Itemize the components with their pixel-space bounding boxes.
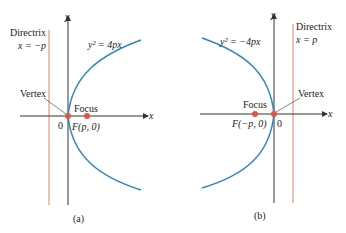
parabola-equation: y² = −4px [219,36,261,47]
focus-coords: F(−p, 0) [231,118,267,130]
x-axis-label: x [148,110,154,121]
vertex-point [65,113,71,119]
origin-label: 0 [58,120,63,131]
focus-coords: F(p, 0) [71,121,100,133]
panel-a: Directrix x = −p y² = 4px Vertex Focus F… [10,11,154,225]
vertex-label: Vertex [20,88,46,99]
vertex-pointer [276,98,300,112]
focus-label: Focus [74,103,98,114]
directrix-label: Directrix [10,27,46,38]
focus-point [252,111,258,117]
origin-label: 0 [277,118,282,129]
directrix-equation: x = p [295,34,317,45]
directrix-equation: x = −p [17,40,46,51]
parabola-curve [202,38,274,188]
y-axis-label: y [270,9,276,20]
vertex-pointer [44,98,66,114]
parabola-curve [68,40,141,190]
vertex-point [271,111,277,117]
vertex-label: Vertex [298,88,324,99]
caption-a: (a) [73,213,84,225]
parabola-equation: y² = 4px [87,39,122,50]
y-axis-label: y [64,11,70,22]
caption-b: (b) [254,210,266,222]
directrix-label: Directrix [296,21,332,32]
panel-b: Directrix x = p y² = −4px Vertex Focus F… [200,9,333,222]
x-axis-label: x [327,108,333,119]
parabola-diagram: Directrix x = −p y² = 4px Vertex Focus F… [0,0,346,233]
focus-label: Focus [243,99,267,110]
